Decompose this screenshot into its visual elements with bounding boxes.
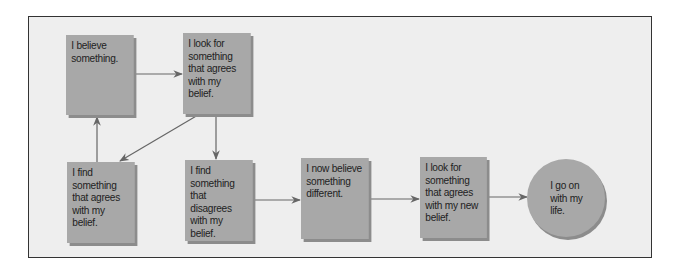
node-label: I go on with my life. (550, 179, 582, 217)
node-find-disagreement: I find something that disagrees with my … (185, 160, 253, 241)
node-find-agreement: I find something that agrees with my bel… (67, 162, 135, 243)
node-label: I now believe something different. (306, 162, 363, 200)
node-label: I find something that disagrees with my … (190, 164, 247, 239)
node-label: I believe something. (71, 39, 128, 64)
node-label: I look for something that agrees with my… (188, 37, 245, 100)
node-look-for-agreement: I look for something that agrees with my… (183, 33, 251, 114)
node-label: I find something that agrees with my bel… (72, 166, 129, 229)
node-believe-different: I now believe something different. (301, 158, 369, 239)
node-believe-something: I believe something. (66, 35, 134, 115)
node-look-for-new-agreement: I look for something that agrees with my… (420, 157, 487, 238)
node-go-on-with-life: I go on with my life. (527, 159, 605, 237)
node-label: I look for something that agrees with my… (425, 161, 481, 224)
